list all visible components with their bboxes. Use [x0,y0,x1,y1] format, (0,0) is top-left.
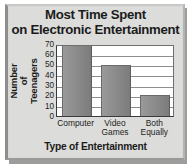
x-axis-title: Type of Entertainment [9,141,182,152]
y-tick-label: 20 [33,92,54,100]
y-tick-label: 50 [33,61,54,69]
y-tick-label: 70 [33,41,54,49]
chart-figure: Most Time Spent on Electronic Entertainm… [0,0,190,167]
y-tick-label: 0 [33,113,54,121]
figure-drop-shadow-bottom [9,160,187,164]
y-tick-label: 60 [33,51,54,59]
chart-title: Most Time Spent on Electronic Entertainm… [9,8,182,37]
x-tick-label: Video Games [95,119,134,138]
y-tick-label: 10 [33,103,54,111]
y-tick-label: 30 [33,82,54,90]
x-axis-tick-labels: ComputerVideo GamesBoth Equally [56,119,174,139]
y-axis-tick-labels: 010203040506070 [33,41,54,121]
plot-area [56,45,174,117]
bar [101,65,131,116]
x-tick-label: Both Equally [135,119,174,138]
x-tick-label: Computer [56,119,95,128]
bar [62,45,92,116]
y-axis-title: Number of Teenagers [16,44,32,118]
y-tick-label: 40 [33,72,54,80]
bar [140,95,170,116]
